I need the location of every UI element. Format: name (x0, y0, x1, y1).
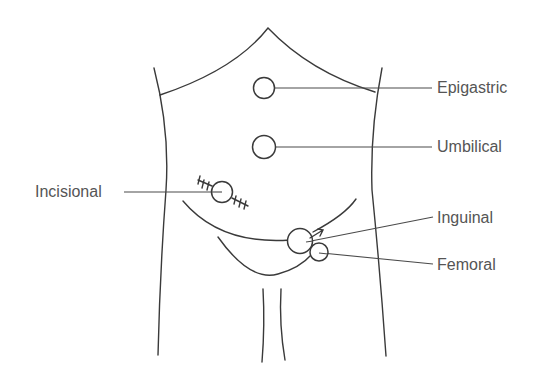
inguinal-ligament-right (313, 199, 356, 232)
torso-left-side (154, 68, 167, 355)
label-inguinal: Inguinal (437, 209, 493, 227)
label-epigastric: Epigastric (437, 79, 507, 97)
torso-outline (154, 28, 386, 362)
femoral-hernia-marker (310, 243, 328, 261)
inguinal-hernia-marker (288, 229, 313, 254)
torso-right-side (372, 68, 386, 356)
umbilical-hernia-marker (253, 136, 276, 159)
label-umbilical: Umbilical (437, 138, 502, 156)
inguinal-ligament-upper (183, 201, 290, 241)
inguinal-leader (306, 217, 433, 242)
epigastric-hernia-marker (254, 78, 275, 99)
leg-inner-right (281, 289, 286, 360)
leg-inner-left (262, 289, 264, 362)
label-femoral: Femoral (437, 256, 496, 274)
leader-lines (124, 88, 433, 264)
label-incisional: Incisional (35, 183, 102, 201)
